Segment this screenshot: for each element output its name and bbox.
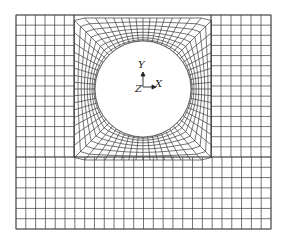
axis-label-x: X <box>155 78 162 89</box>
axis-label-y: Y <box>138 59 145 70</box>
fe-mesh-diagram <box>0 0 284 248</box>
axis-label-z: Z <box>135 83 142 94</box>
